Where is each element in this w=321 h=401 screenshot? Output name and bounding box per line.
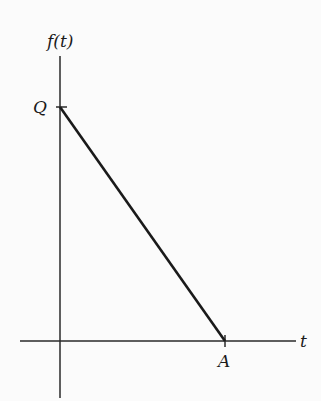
y-axis-label: f(t): [45, 31, 73, 51]
chart-canvas: f(t) t Q A: [0, 0, 321, 401]
data-line: [60, 107, 225, 341]
y-tick-label-q: Q: [33, 97, 47, 117]
x-axis-label: t: [300, 331, 307, 351]
x-tick-label-a: A: [216, 351, 230, 371]
